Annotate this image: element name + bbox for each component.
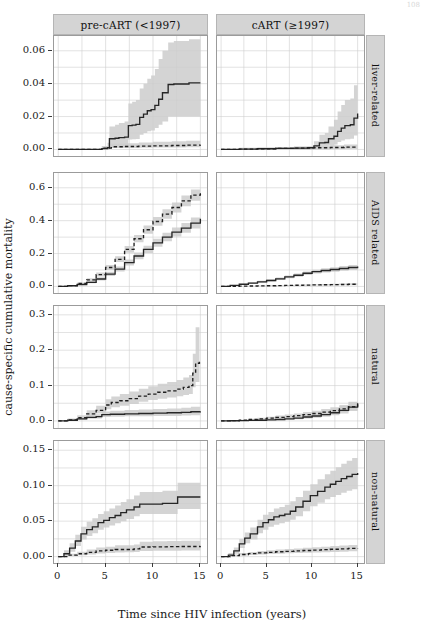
y-axis-tick-mark — [48, 220, 52, 221]
panel-liver-related-pre-cart — [53, 35, 208, 157]
column-strip-pre-cart: pre-cART (<1997) — [53, 14, 208, 35]
x-axis-tick-label: 10 — [296, 570, 326, 581]
grid-lines — [54, 173, 207, 293]
y-axis-tick-mark — [48, 116, 52, 117]
x-axis-tick-mark — [357, 563, 358, 567]
grid-lines — [217, 173, 364, 293]
panel-non-natural-cart — [216, 440, 365, 564]
x-axis-title: Time since HIV infection (years) — [0, 607, 424, 621]
x-axis-tick-mark — [199, 563, 200, 567]
y-axis-tick-mark — [48, 148, 52, 149]
x-axis-tick-mark — [57, 563, 58, 567]
x-axis-tick-label: 10 — [137, 570, 167, 581]
y-axis-tick-label: 0.2 — [5, 248, 45, 258]
x-axis-tick-label: 0 — [42, 570, 72, 581]
column-strip-label: pre-cART (<1997) — [81, 19, 181, 31]
y-axis-tick-label: 0.1 — [5, 380, 45, 390]
y-axis-tick-label: 0.00 — [5, 143, 45, 153]
x-axis-tick-mark — [266, 563, 267, 567]
panel-non-natural-pre-cart — [53, 440, 208, 564]
row-strip-liver-related: liver-related — [366, 35, 385, 157]
row-strip-label: natural — [370, 348, 381, 385]
x-axis-tick-label: 15 — [342, 570, 372, 581]
x-axis-tick-mark — [311, 563, 312, 567]
y-axis-tick-mark — [48, 83, 52, 84]
panel-aids-related-cart — [216, 172, 365, 294]
row-strip-label: non-natural — [370, 472, 381, 531]
x-axis-tick-label: 5 — [90, 570, 120, 581]
y-axis-tick-label: 0.00 — [5, 551, 45, 561]
row-strip-non-natural: non-natural — [366, 440, 385, 564]
y-axis-tick-label: 0.06 — [5, 45, 45, 55]
y-axis-tick-label: 0.0 — [5, 280, 45, 290]
row-strip-aids-related: AIDS related — [366, 172, 385, 294]
row-strip-label: liver-related — [370, 64, 381, 127]
x-axis-tick-label: 5 — [251, 570, 281, 581]
x-axis-tick-label: 0 — [205, 570, 235, 581]
y-axis-tick-mark — [48, 420, 52, 421]
y-axis-tick-mark — [48, 349, 52, 350]
y-axis-tick-mark — [48, 253, 52, 254]
page-number: 108 — [407, 1, 420, 9]
column-strip-label: cART (≥1997) — [252, 19, 330, 31]
y-axis-tick-mark — [48, 449, 52, 450]
row-strip-natural: natural — [366, 305, 385, 429]
panel-natural-cart — [216, 305, 365, 429]
y-axis-tick-label: 0.02 — [5, 111, 45, 121]
y-axis-tick-mark — [48, 187, 52, 188]
y-axis-tick-label: 0.6 — [5, 182, 45, 192]
y-axis-tick-label: 0.3 — [5, 309, 45, 319]
y-axis-tick-mark — [48, 50, 52, 51]
y-axis-tick-mark — [48, 285, 52, 286]
x-axis-tick-mark — [152, 563, 153, 567]
x-axis-tick-mark — [105, 563, 106, 567]
y-axis-tick-label: 0.0 — [5, 415, 45, 425]
y-axis-tick-label: 0.15 — [5, 444, 45, 454]
y-axis-tick-label: 0.4 — [5, 215, 45, 225]
column-strip-cart: cART (≥1997) — [216, 14, 365, 35]
x-axis-tick-mark — [220, 563, 221, 567]
panel-liver-related-cart — [216, 35, 365, 157]
y-axis-tick-label: 0.10 — [5, 480, 45, 490]
y-axis-tick-mark — [48, 556, 52, 557]
y-axis-tick-label: 0.04 — [5, 78, 45, 88]
y-axis-tick-mark — [48, 385, 52, 386]
figure-root: 108 pre-cART (<1997) cART (≥1997) cause-… — [0, 0, 424, 633]
y-axis-tick-label: 0.05 — [5, 515, 45, 525]
row-strip-label: AIDS related — [370, 200, 381, 266]
y-axis-tick-label: 0.2 — [5, 344, 45, 354]
panel-natural-pre-cart — [53, 305, 208, 429]
panel-aids-related-pre-cart — [53, 172, 208, 294]
y-axis-tick-mark — [48, 314, 52, 315]
y-axis-tick-mark — [48, 485, 52, 486]
y-axis-tick-mark — [48, 520, 52, 521]
